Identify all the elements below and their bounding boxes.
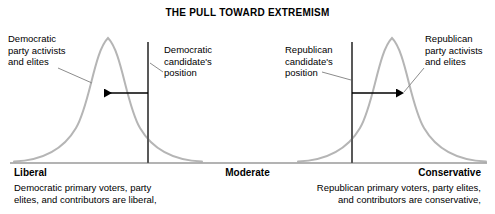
extremism-diagram: THE PULL TOWARD EXTREMISM <box>0 0 495 214</box>
democratic-candidate-leader-line <box>150 63 163 72</box>
footnote-republican: Republican primary voters, party elites,… <box>276 182 481 206</box>
democratic-activists-leader-line <box>58 68 92 83</box>
annotation-democratic-candidate: Democratic candidate's position <box>164 44 234 79</box>
footnote-democratic: Democratic primary voters, party elites,… <box>14 182 214 206</box>
annotation-republican-candidate: Republican candidate's position <box>285 44 355 79</box>
axis-label-conservative: Conservative <box>418 167 481 178</box>
annotation-republican-activists: Republican party activists and elites <box>425 33 495 68</box>
annotation-democratic-activists: Democratic party activists and elites <box>8 33 86 68</box>
